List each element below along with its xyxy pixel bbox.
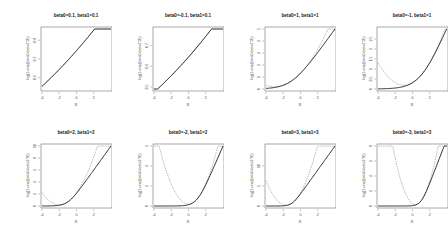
x-tick-label: -2 [58, 213, 61, 217]
plot-panel: -4-202012345beta0=1, beta1=1Xlog(1+exp(b… [224, 0, 336, 117]
y-axis-label: log(1+exp(beta0+beta1*X)) [26, 135, 30, 215]
plot-title: beta0=-1, beta1=1 [374, 13, 448, 18]
exact-curve [154, 29, 223, 89]
x-tick-label: 2 [205, 213, 207, 217]
y-tick-label: 6 [369, 160, 373, 162]
x-tick-label: 2 [317, 96, 319, 100]
approx-curve [154, 29, 223, 89]
y-tick-label: 2 [145, 185, 149, 187]
exact-curve [42, 29, 111, 86]
approx-curve [42, 146, 111, 205]
plot-box [153, 144, 224, 208]
y-tick-label: 0 [369, 88, 373, 90]
x-axis-label: X [374, 219, 448, 224]
x-tick-label: 0 [412, 213, 414, 217]
approx-curve [266, 146, 335, 205]
y-axis-label: log(1+exp(beta0+beta1*X)) [250, 135, 254, 215]
x-axis-label: X [38, 219, 114, 224]
x-tick-label: 0 [188, 213, 190, 217]
x-tick-label: 2 [205, 96, 207, 100]
x-tick-label: -2 [170, 96, 173, 100]
plot-title: beta0=-3, beta1=3 [374, 130, 448, 135]
x-tick-label: -4 [40, 213, 43, 217]
y-tick-label: 2 [257, 64, 261, 66]
plot-panel: -4-2020510beta0=3, beta1=3Xlog(1+exp(bet… [224, 117, 336, 234]
y-axis-label: log(1+exp(beta0+beta1*X)) [138, 18, 142, 98]
y-tick-label: 0 [33, 205, 37, 207]
x-tick-label: 2 [317, 213, 319, 217]
plot-panel: -4-2020.60.70.8beta0=0.1, beta1=0.1Xlog(… [0, 0, 112, 117]
plot-box [377, 144, 448, 208]
exact-curve [42, 146, 111, 206]
y-tick-label: 0.8 [33, 38, 37, 43]
x-tick-label: 2 [93, 96, 95, 100]
y-tick-label: 5 [257, 28, 261, 30]
plot-title: beta0=-2, beta1=2 [150, 130, 226, 135]
x-tick-label: 0 [300, 213, 302, 217]
y-tick-label: 6 [145, 145, 149, 147]
x-tick-label: -4 [376, 96, 379, 100]
y-tick-label: 0 [145, 205, 149, 207]
exact-curve [266, 29, 335, 88]
y-tick-label: 4 [369, 175, 373, 177]
y-tick-label: 2.5 [369, 37, 373, 42]
y-axis-label: log(1+exp(beta0+beta1*X)) [362, 18, 366, 98]
plot-box [41, 144, 112, 208]
plot-title: beta0=-0.1, beta1=0.1 [150, 13, 226, 18]
plot-panel: -4-2020246beta0=-2, beta1=2Xlog(1+exp(be… [112, 117, 224, 234]
y-tick-label: 6 [33, 169, 37, 171]
x-axis-label: X [262, 102, 338, 107]
x-tick-label: -2 [282, 96, 285, 100]
plot-panel: -4-2020246810beta0=2, beta1=2Xlog(1+exp(… [0, 117, 112, 234]
y-tick-label: 0.5 [369, 77, 373, 82]
y-tick-label: 8 [369, 145, 373, 147]
x-tick-label: 2 [429, 213, 431, 217]
y-axis-label: log(1+exp(beta0+beta1*X)) [138, 135, 142, 215]
plot-panel: -4-20200.511.522.5beta0=-1, beta1=1Xlog(… [336, 0, 448, 117]
y-tick-label: 4 [33, 181, 37, 183]
x-tick-label: -2 [58, 96, 61, 100]
exact-curve [154, 146, 223, 206]
x-tick-label: -4 [264, 96, 267, 100]
x-tick-label: 0 [412, 96, 414, 100]
y-tick-label: 2 [369, 48, 373, 50]
y-axis-label: log(1+exp(beta0+beta1*X)) [250, 18, 254, 98]
x-tick-label: -2 [282, 213, 285, 217]
x-tick-label: -2 [170, 213, 173, 217]
plot-box [377, 27, 448, 91]
plot-box [153, 27, 224, 91]
y-tick-label: 10 [257, 164, 261, 168]
y-tick-label: 2 [33, 193, 37, 195]
plot-title: beta0=3, beta1=3 [262, 130, 338, 135]
plot-box [265, 27, 336, 91]
approx-curve [378, 146, 447, 205]
x-tick-label: 2 [429, 96, 431, 100]
plot-title: beta0=2, beta1=2 [38, 130, 114, 135]
plot-panel: -4-20202468beta0=-3, beta1=3Xlog(1+exp(b… [336, 117, 448, 234]
y-tick-label: 8 [33, 157, 37, 159]
approx-curve [42, 29, 111, 86]
x-tick-label: 0 [76, 213, 78, 217]
y-tick-label: 0 [369, 205, 373, 207]
x-axis-label: X [150, 219, 226, 224]
x-axis-label: X [374, 102, 448, 107]
y-axis-label: log(1+exp(beta0+beta1*X)) [362, 135, 366, 215]
x-axis-label: X [38, 102, 114, 107]
x-tick-label: -4 [152, 213, 155, 217]
y-tick-label: 4 [257, 40, 261, 42]
exact-curve [266, 146, 335, 206]
y-tick-label: 1 [257, 76, 261, 78]
x-tick-label: 0 [76, 96, 78, 100]
y-tick-label: 1 [369, 68, 373, 70]
y-tick-label: 2 [369, 190, 373, 192]
approx-curve [378, 29, 447, 85]
x-tick-label: -4 [264, 213, 267, 217]
approx-curve [154, 146, 223, 204]
y-tick-label: 0.6 [33, 75, 37, 80]
x-tick-label: -2 [394, 213, 397, 217]
y-tick-label: 0.7 [145, 43, 149, 48]
plot-title: beta0=1, beta1=1 [262, 13, 338, 18]
y-tick-label: 0 [257, 88, 261, 90]
plot-box [41, 27, 112, 91]
x-tick-label: -2 [394, 96, 397, 100]
